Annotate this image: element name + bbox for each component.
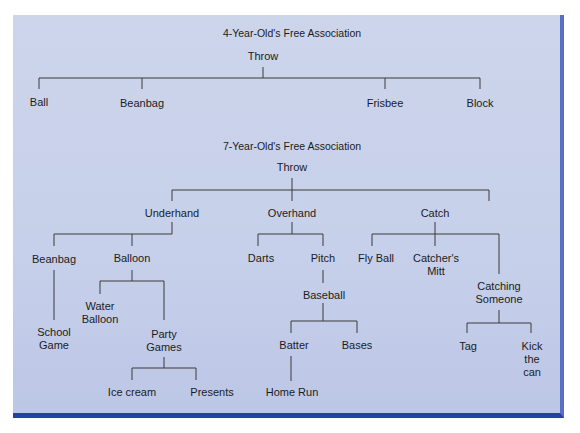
node-balloon: Balloon — [114, 252, 151, 265]
node-bases: Bases — [342, 339, 373, 352]
node-pitch: Pitch — [311, 252, 335, 265]
node-party-games: Party Games — [146, 328, 181, 354]
node-beanbag: Beanbag — [32, 253, 76, 266]
node-fly-ball: Fly Ball — [358, 252, 394, 265]
node-kick-the-can: Kick the can — [522, 340, 543, 379]
node-underhand: Underhand — [145, 207, 199, 220]
node-catching-someone: Catching Someone — [475, 280, 522, 306]
node-tag: Tag — [459, 340, 477, 353]
node-catch: Catch — [421, 207, 450, 220]
tree1-node-beanbag: Beanbag — [120, 97, 164, 110]
node-school-game: School Game — [37, 326, 71, 352]
tree1-node-ball: Ball — [30, 96, 48, 109]
node-presents: Presents — [190, 386, 233, 399]
node-home-run: Home Run — [266, 386, 319, 399]
tree1-title: 4-Year-Old's Free Association — [223, 27, 361, 39]
node-batter: Batter — [279, 339, 308, 352]
node-darts: Darts — [248, 252, 274, 265]
node-catchers-mitt: Catcher's Mitt — [413, 252, 459, 278]
tree1-node-frisbee: Frisbee — [367, 97, 404, 110]
tree1-node-block: Block — [467, 97, 494, 110]
node-water-balloon: Water Balloon — [82, 300, 119, 326]
tree2-root-node: Throw — [277, 161, 308, 174]
node-ice-cream: Ice cream — [108, 386, 156, 399]
node-overhand: Overhand — [268, 207, 316, 220]
node-baseball: Baseball — [303, 289, 345, 302]
tree2-title: 7-Year-Old's Free Association — [223, 140, 361, 152]
tree1-root-node: Throw — [248, 50, 279, 63]
